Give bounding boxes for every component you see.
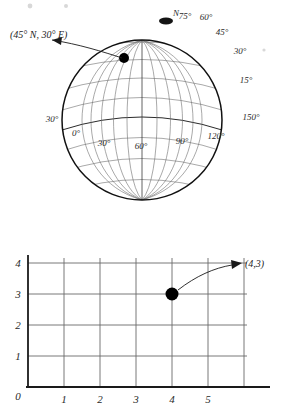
cartesian-diagram: (4,3) 4 3 2 1 0 1 2 3 4 5 xyxy=(0,240,282,406)
globe-lat-label-30-right: 30° xyxy=(233,46,247,56)
cartesian-callout-arrowhead xyxy=(231,260,242,269)
cartesian-x-tick-2: 2 xyxy=(97,393,103,405)
globe-lat-label-30-left: 30° xyxy=(45,114,59,124)
globe-point-marker xyxy=(119,53,129,63)
globe-polar-cap xyxy=(120,28,164,34)
cartesian-y-tick-0: 0 xyxy=(15,390,21,402)
globe-callout-label: (45° N, 30° E) xyxy=(10,29,68,41)
globe-lon-label-60: 60° xyxy=(135,141,148,151)
scan-speck xyxy=(28,4,33,9)
globe-lon-label-120: 120° xyxy=(207,131,225,141)
north-pole-marker xyxy=(159,18,173,25)
cartesian-x-tick-5: 5 xyxy=(205,393,211,405)
cartesian-y-tick-3: 3 xyxy=(14,288,21,300)
globe-lon-label-0: 0° xyxy=(72,128,81,138)
globe-lat-label-75: 75° xyxy=(179,11,192,21)
globe-lat-label-60: 60° xyxy=(200,12,213,22)
scan-speck xyxy=(64,4,68,8)
globe-meridians xyxy=(82,40,202,200)
scan-speck xyxy=(262,48,265,51)
cartesian-point-marker xyxy=(166,288,179,301)
globe-lat-label-15: 15° xyxy=(240,75,253,85)
globe-lon-label-90: 90° xyxy=(176,136,189,146)
globe-diagram: (45° N, 30° E) N 75° 60° 45° 30° 15° 30°… xyxy=(0,0,282,240)
globe-lon-label-30: 30° xyxy=(97,138,111,148)
globe-lon-label-150: 150° xyxy=(242,112,260,122)
figure-root: (45° N, 30° E) N 75° 60° 45° 30° 15° 30°… xyxy=(0,0,282,406)
cartesian-y-tick-2: 2 xyxy=(15,319,21,331)
cartesian-callout-arrow xyxy=(178,265,232,290)
cartesian-point-label: (4,3) xyxy=(245,258,265,270)
globe-lat-label-45: 45° xyxy=(216,27,229,37)
cartesian-y-tick-1: 1 xyxy=(15,350,21,362)
cartesian-x-tick-3: 3 xyxy=(132,393,139,405)
globe-graticule xyxy=(62,25,222,201)
cartesian-vertical-gridlines xyxy=(64,258,244,387)
cartesian-horizontal-gridlines xyxy=(28,263,247,356)
cartesian-x-tick-4: 4 xyxy=(169,393,175,405)
cartesian-y-tick-4: 4 xyxy=(15,257,21,269)
cartesian-x-tick-1: 1 xyxy=(61,393,67,405)
